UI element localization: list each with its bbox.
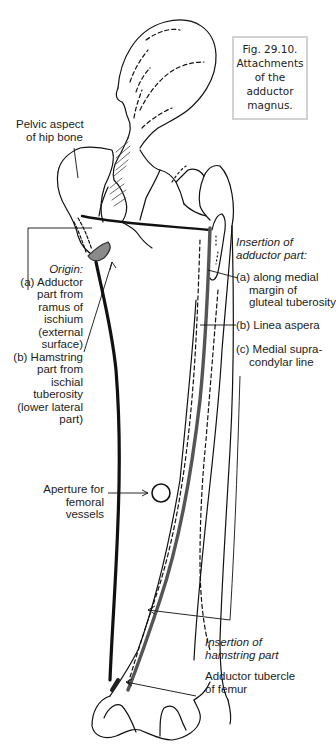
label-line: condylar line [236, 356, 322, 369]
lateral-condyle-curve [160, 706, 186, 736]
greater-trochanter [204, 165, 234, 226]
label-line: tuberosity [1, 388, 83, 401]
label-aperture: Aperture for femoral vessels [20, 483, 104, 521]
label-line: Adductor tubercle [205, 670, 295, 683]
figure-caption: Fig. 29.10. Attachments of the adductor … [232, 36, 308, 120]
label-line: (b) Hamstring [1, 351, 83, 364]
label-line: (c) Medial supra- [236, 343, 322, 356]
label-line: Insertion of [236, 236, 307, 249]
label-line: Aperture for [20, 483, 104, 496]
label-line: (external [1, 326, 83, 339]
label-line: ramus of [1, 301, 83, 314]
label-line: Insertion of [205, 636, 279, 649]
ischium-outline [57, 172, 100, 258]
label-line: surface) [1, 338, 83, 351]
label-insertion-c: (c) Medial supra- condylar line [236, 343, 322, 368]
label-adductor-tubercle: Adductor tubercle of femur [205, 670, 295, 695]
label-line: margin of [236, 284, 336, 297]
adductor-magnus-medial-border [96, 262, 119, 680]
label-origin: Origin: (a) Adductor part from ramus of … [1, 263, 83, 426]
label-pelvic-aspect: Pelvic aspect of hip bone [16, 118, 84, 143]
label-line: part from [1, 363, 83, 376]
label-line: (lower lateral [1, 401, 83, 414]
iliac-notch [116, 88, 130, 138]
label-line: femoral [20, 496, 104, 509]
label-origin-heading: Origin: [1, 263, 83, 276]
caption-line: Attachments [234, 56, 306, 70]
label-insertion-b: (b) Linea aspera [236, 319, 320, 332]
label-line: hamstring part [205, 649, 279, 662]
label-line: (a) Adductor [1, 276, 83, 289]
gluteal-tuberosity [210, 214, 225, 280]
leader-pelvic [74, 148, 78, 178]
label-line: (b) Linea aspera [236, 319, 320, 332]
pubis-outline [58, 147, 113, 222]
femoral-condyles [92, 696, 200, 740]
label-insertion-a: (a) along medial margin of gluteal tuber… [236, 271, 336, 309]
label-line: ischium [1, 313, 83, 326]
label-line: part) [1, 413, 83, 426]
caption-line: Fig. 29.10. [234, 42, 306, 56]
label-insertion-adductor-heading: Insertion of adductor part: [236, 236, 307, 261]
ischiopubic-origin-line [82, 216, 210, 230]
label-line: ischial [1, 376, 83, 389]
label-line: gluteal tuberosity [236, 296, 336, 309]
label-insertion-hamstring: Insertion of hamstring part [205, 636, 279, 661]
label-line: of femur [205, 683, 295, 696]
leader-insertion-c-arrow [148, 610, 230, 620]
label-line: vessels [20, 508, 104, 521]
caption-line: magnus. [234, 98, 306, 112]
femur-lateral-border [194, 226, 232, 660]
label-line: of hip bone [16, 131, 84, 144]
ischial-tuberosity-shaded [88, 242, 110, 261]
caption-line: adductor [234, 84, 306, 98]
label-line: Pelvic aspect [16, 118, 84, 131]
label-line: part from [1, 288, 83, 301]
label-line: adductor part: [236, 249, 307, 262]
ilium-outline [118, 20, 216, 148]
aperture-circle [152, 484, 170, 502]
caption-line: of the [234, 70, 306, 84]
medial-condyle-curve [104, 705, 136, 732]
label-line: (a) along medial [236, 271, 336, 284]
leader-adductor-tubercle [126, 682, 196, 696]
